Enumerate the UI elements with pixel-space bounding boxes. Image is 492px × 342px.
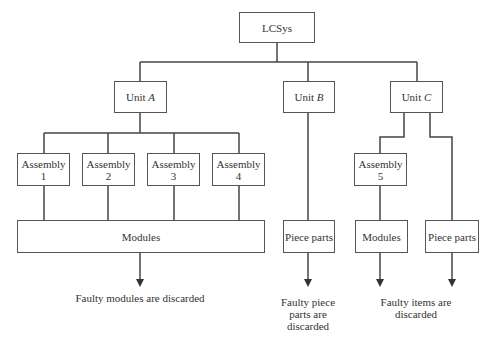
node-assembly-2: Assembly 2 [82, 153, 135, 186]
unit-b-label: Unit B [294, 91, 323, 103]
node-lcsys-label: LCSys [262, 22, 292, 34]
node-unit-c: Unit C [390, 81, 443, 113]
node-lcsys: LCSys [239, 12, 315, 43]
node-assembly-5: Assembly 5 [354, 153, 407, 186]
caption-unit-a-text: Faulty modules are discarded [75, 292, 204, 304]
node-unit-c-piece-parts: Piece parts [425, 220, 479, 253]
assembly-5-number: 5 [378, 170, 384, 182]
node-unit-c-modules: Modules [355, 220, 408, 253]
assembly-3-label: Assembly [152, 158, 196, 170]
node-assembly-4: Assembly 4 [212, 153, 265, 186]
caption-unit-b-line-1: Faulty piece [268, 296, 348, 308]
unit-c-piece-parts-label: Piece parts [428, 231, 476, 243]
assembly-2-label: Assembly [87, 158, 131, 170]
assembly-1-label: Assembly [22, 158, 66, 170]
node-unit-b: Unit B [283, 81, 335, 113]
caption-unit-c-line-2: discarded [366, 308, 466, 320]
caption-unit-b: Faulty piece parts are discarded [268, 296, 348, 332]
assembly-4-label: Assembly [217, 158, 261, 170]
caption-unit-c: Faulty items are discarded [366, 296, 466, 320]
caption-unit-b-line-2: parts are [268, 308, 348, 320]
unit-c-modules-label: Modules [362, 231, 401, 243]
assembly-4-number: 4 [236, 170, 242, 182]
unit-b-piece-parts-label: Piece parts [285, 231, 333, 243]
assembly-1-number: 1 [41, 170, 47, 182]
node-unit-a-modules: Modules [17, 220, 265, 253]
node-unit-a: Unit A [114, 81, 167, 113]
caption-unit-c-line-1: Faulty items are [366, 296, 466, 308]
node-unit-b-piece-parts: Piece parts [283, 220, 335, 253]
assembly-5-label: Assembly [359, 158, 403, 170]
node-assembly-1: Assembly 1 [17, 153, 70, 186]
caption-unit-a: Faulty modules are discarded [40, 292, 240, 304]
unit-a-modules-label: Modules [122, 231, 161, 243]
assembly-2-number: 2 [106, 170, 112, 182]
node-assembly-3: Assembly 3 [147, 153, 200, 186]
caption-unit-b-line-3: discarded [268, 320, 348, 332]
unit-c-label: Unit C [402, 91, 432, 103]
assembly-3-number: 3 [171, 170, 177, 182]
unit-a-label: Unit A [126, 91, 155, 103]
